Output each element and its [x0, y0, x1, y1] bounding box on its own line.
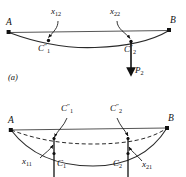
panel-a-label-a: A [6, 18, 12, 28]
panel-a-label-b: B [170, 16, 176, 26]
panel-b-label-a: A [8, 116, 14, 126]
panel-a-leader-x12 [49, 21, 59, 38]
figure-root: x12 x22 A B C″1 C″2 P2 (a) C″1 C″2 A B x… [0, 0, 186, 177]
panel-b-leader-x11 [40, 145, 53, 158]
panel-b-label-c2: C2 [113, 159, 122, 168]
panel-a-leader-x22 [117, 21, 130, 39]
panel-a-deflected-curve [9, 31, 169, 48]
panel-b-point-c1pp [52, 137, 55, 140]
panel-a-label-c1-double-prime: C″1 [38, 44, 50, 53]
panel-a-label-x12: x12 [51, 7, 61, 16]
panel-a-caption: (a) [8, 73, 18, 82]
panel-a-graphics [7, 21, 171, 72]
panel-a-label-x22: x22 [110, 7, 120, 16]
panel-b-point-c2 [126, 152, 129, 155]
panel-b-support-b [165, 126, 169, 130]
panel-b-point-c2pp [126, 137, 129, 140]
panel-b-label-c2-double-prime: C″2 [110, 104, 122, 113]
panel-a-point-c1 [47, 39, 50, 42]
panel-b-label-x11: x11 [22, 157, 32, 166]
panel-a-support-a [7, 30, 11, 34]
panel-b-dashed-curve [11, 128, 167, 144]
panel-a-reference-axis [9, 31, 169, 33]
panel-b-label-b: B [168, 114, 174, 124]
panel-a-support-b [167, 28, 171, 32]
panel-b-point-c1 [52, 152, 55, 155]
panel-a-label-c2-double-prime: C″2 [124, 45, 136, 54]
panel-b-label-c1: C1 [57, 159, 66, 168]
panel-b-label-c1-double-prime: C″1 [61, 104, 73, 113]
figure-canvas [0, 0, 186, 177]
panel-b-leader-c2pp [117, 118, 128, 136]
panel-a-label-p2: P2 [135, 66, 144, 75]
panel-b-support-a [9, 128, 13, 132]
panel-b-label-x21: x21 [142, 160, 152, 169]
panel-b-leader-c1pp [55, 118, 68, 137]
panel-b-reference-axis [11, 128, 167, 130]
